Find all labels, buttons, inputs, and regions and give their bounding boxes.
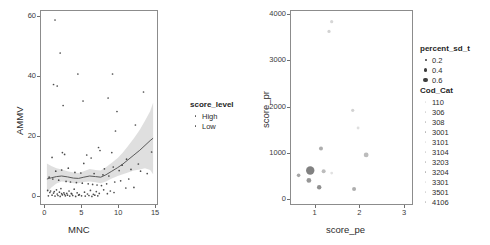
scatter-point: [297, 174, 301, 178]
cod-cat-legend-item[interactable]: 3501: [420, 187, 453, 197]
scatter-point: [306, 178, 311, 183]
scatter-point: [67, 167, 69, 169]
scatter-point: [50, 190, 52, 192]
scatter-point: [60, 188, 62, 190]
scatter-point: [51, 157, 53, 159]
legend-color-icon: [420, 177, 431, 187]
x-tick-label: 3: [388, 209, 420, 217]
scatter-point: [118, 170, 120, 172]
percent-sd-legend-label: 0.2: [432, 56, 442, 65]
scatter-point: [74, 172, 76, 174]
scatter-point: [53, 191, 55, 193]
scatter-point: [135, 124, 137, 126]
y-tick-mark: [287, 107, 290, 108]
cod-cat-legend-item[interactable]: 3203: [420, 157, 453, 167]
scatter-point: [95, 191, 97, 193]
percent-sd-legend-item[interactable]: 0.4: [420, 65, 470, 75]
scatter-point: [351, 109, 354, 112]
scatter-point: [56, 193, 58, 195]
cod-cat-legend-item[interactable]: 3301: [420, 177, 453, 187]
scatter-point: [146, 173, 148, 175]
cod-cat-legend-item[interactable]: 3101: [420, 137, 453, 147]
y-tick-mark: [287, 199, 290, 200]
scatter-point: [59, 196, 61, 198]
cod-cat-legend-item[interactable]: 3204: [420, 167, 453, 177]
cod-cat-legend-title: Cod_Cat: [420, 86, 453, 95]
scatter-point: [76, 182, 78, 184]
cod-cat-legend-item[interactable]: 110: [420, 97, 453, 107]
scatter-point: [92, 184, 94, 186]
scatter-point: [133, 187, 135, 189]
scatter-point: [121, 164, 123, 166]
scatter-point: [94, 194, 96, 196]
right-x-axis-title: score_pe: [326, 224, 365, 235]
scatter-point: [107, 193, 109, 195]
scatter-point: [54, 19, 56, 21]
scatter-point: [140, 170, 142, 172]
scatter-point: [306, 166, 314, 174]
scatter-point: [116, 111, 118, 113]
score-level-legend-entries: HighLow: [190, 111, 234, 131]
scatter-point: [49, 192, 51, 194]
scatter-point: [151, 151, 153, 153]
scatter-point: [69, 195, 71, 197]
legend-color-icon: [420, 147, 431, 157]
scatter-point: [51, 194, 53, 196]
right-plot-area: [290, 10, 413, 205]
legend-color-icon: [420, 157, 431, 167]
legend-point-icon: [190, 111, 201, 121]
legend-color-icon: [420, 187, 431, 197]
right-plot-svg: [291, 11, 414, 206]
scatter-point: [109, 190, 111, 192]
scatter-point: [75, 196, 77, 198]
x-tick-label: 2: [343, 209, 375, 217]
scatter-point: [64, 154, 66, 156]
percent-sd-legend-label: 0.6: [432, 76, 442, 85]
scatter-point: [63, 192, 65, 194]
scatter-point: [93, 193, 95, 195]
cod-cat-legend-label: 3104: [432, 148, 449, 157]
legend-color-icon: [420, 197, 431, 207]
y-tick-label: 0: [254, 195, 286, 203]
y-tick-mark: [37, 76, 40, 77]
legend-color-icon: [420, 97, 431, 107]
scatter-point: [103, 189, 105, 191]
scatter-point: [91, 196, 93, 198]
cod-cat-legend-item[interactable]: 4106: [420, 197, 453, 207]
y-tick-mark: [287, 14, 290, 15]
percent-sd-legend-item[interactable]: 0.6: [420, 75, 470, 85]
cod-cat-legend-item[interactable]: 3001: [420, 127, 453, 137]
scatter-point: [62, 105, 64, 107]
left-plot-area: [40, 10, 158, 205]
scatter-point: [87, 183, 89, 185]
score-level-legend-item[interactable]: High: [190, 111, 234, 121]
scatter-point: [319, 146, 323, 150]
scatter-point: [93, 173, 95, 175]
cod-cat-legend-label: 3001: [432, 128, 449, 137]
scatter-point: [107, 97, 109, 99]
scatter-point: [322, 169, 326, 173]
scatter-point: [86, 154, 88, 156]
x-tick-label: 0: [28, 209, 60, 217]
scatter-point: [64, 195, 66, 197]
cod-cat-legend-item[interactable]: 3104: [420, 147, 453, 157]
y-tick-mark: [37, 16, 40, 17]
cod-cat-legend-label: 3204: [432, 168, 449, 177]
scatter-point: [115, 130, 117, 132]
scatter-point: [90, 157, 92, 159]
scatter-point: [82, 100, 84, 102]
percent-sd-legend-item[interactable]: 0.2: [420, 55, 470, 65]
scatter-point: [126, 158, 128, 160]
legend-color-icon: [420, 107, 431, 117]
scatter-point: [83, 163, 85, 165]
cod-cat-legend-item[interactable]: 306: [420, 107, 453, 117]
percent-sd-legend-entries: 0.20.40.6: [420, 55, 470, 85]
left-scatter-panel: 0204060 051015 AMMV MNC score_level High…: [0, 0, 250, 245]
scatter-point: [99, 150, 101, 152]
cod-cat-legend-item[interactable]: 308: [420, 117, 453, 127]
y-tick-mark: [287, 60, 290, 61]
scatter-point: [106, 183, 108, 185]
score-level-legend-item[interactable]: Low: [190, 121, 234, 131]
scatter-point: [70, 181, 72, 183]
x-tick-label: 10: [102, 209, 134, 217]
